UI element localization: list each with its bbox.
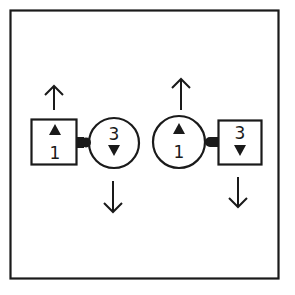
square-digit: 1 [50,143,61,163]
connector-joint [205,137,218,147]
up-pointer-icon [173,123,185,134]
right-pair: 1 3 [153,79,262,207]
left-pair: 1 3 [32,86,140,212]
up-pointer-icon [49,124,61,135]
square-digit: 3 [235,123,246,143]
up-arrow-icon [45,86,63,110]
circle-digit: 1 [174,142,185,162]
circle-digit: 3 [109,124,120,144]
up-arrow-icon [172,79,190,110]
down-pointer-icon [108,145,120,156]
down-arrow-icon [229,177,247,207]
diagram-canvas: 1 3 1 3 [0,0,295,295]
down-arrow-icon [104,181,122,212]
down-pointer-icon [234,145,246,156]
